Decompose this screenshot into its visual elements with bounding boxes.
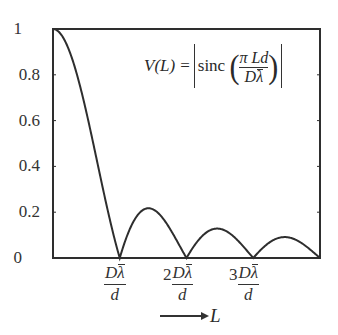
x-axis-direction: L: [160, 305, 221, 327]
x-tick-label-2: 2Dλd: [163, 263, 193, 305]
formula-denominator: Dλ: [239, 68, 268, 86]
x-tick-label-3: 3Dλd: [229, 263, 259, 305]
y-tick-label: 0.2: [0, 203, 40, 220]
left-paren: (: [229, 43, 239, 91]
formula-lhs: V(L): [144, 56, 175, 76]
formula-func: sinc: [198, 56, 225, 75]
formula-absolute-value: sinc (π LdDλ): [194, 44, 283, 88]
formula-annotation: V(L) = sinc (π LdDλ): [144, 44, 282, 88]
y-tick-label: 0.4: [0, 157, 40, 174]
x-tick-label-1: Dλd: [104, 263, 126, 305]
y-tick-label: 1: [0, 20, 22, 37]
right-arrow-icon: [160, 315, 202, 317]
y-tick-label: 0.8: [0, 66, 40, 83]
y-tick-label: 0: [0, 249, 22, 266]
formula-fraction: π LdDλ: [239, 49, 268, 86]
x-axis-label: L: [210, 305, 221, 327]
y-tick-label: 0.6: [0, 112, 40, 129]
right-paren: ): [268, 43, 278, 91]
formula-numerator: π Ld: [239, 49, 268, 67]
formula-equals: =: [180, 56, 190, 76]
